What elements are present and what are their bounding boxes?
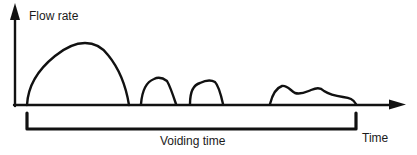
flow-rate-diagram: Flow rate Time Voiding time xyxy=(0,0,417,155)
flow-episode-4 xyxy=(270,86,356,104)
x-axis-label: Time xyxy=(362,131,389,145)
voiding-time-label: Voiding time xyxy=(160,134,226,148)
x-axis-arrowhead-icon xyxy=(389,100,406,110)
y-axis-label: Flow rate xyxy=(29,9,79,23)
flow-episode-3 xyxy=(190,80,223,104)
y-axis-arrowhead-icon xyxy=(10,3,20,20)
flow-episode-2 xyxy=(141,78,176,104)
voiding-time-bracket xyxy=(27,113,356,129)
flow-episode-1 xyxy=(27,43,129,105)
